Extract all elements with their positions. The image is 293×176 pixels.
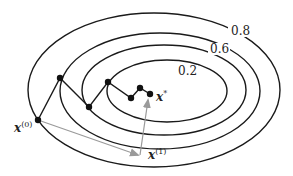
step-arrow-1 xyxy=(38,120,138,155)
label-x1: x(1) xyxy=(148,148,167,161)
point-3 xyxy=(105,79,111,85)
label-x0: x(0) xyxy=(14,121,33,134)
contour-label-0.6: 0.6 xyxy=(210,43,229,55)
point-5 xyxy=(137,85,143,91)
point-2 xyxy=(86,104,92,110)
point-optimum xyxy=(147,91,153,97)
point-x0 xyxy=(35,117,41,123)
contour-label-0.8: 0.8 xyxy=(231,25,250,37)
label-x-star: x* xyxy=(156,90,167,103)
contour-label-0.2: 0.2 xyxy=(178,65,197,77)
step-arrow-2 xyxy=(140,100,148,155)
point-1 xyxy=(57,75,63,81)
point-4 xyxy=(128,95,134,101)
gradient-descent-diagram: 0.8 0.6 0.2 x(0) x(1) x* xyxy=(0,0,293,176)
